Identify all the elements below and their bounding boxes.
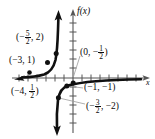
- p5-close-paren: ): [112, 82, 115, 92]
- p6-x-numerator: 3: [95, 99, 101, 107]
- point-marker-p4: [71, 81, 76, 86]
- curve-left-branch: [22, 18, 58, 78]
- p2-close-paren: ): [32, 55, 35, 65]
- p4-y-denominator: 2: [98, 52, 104, 61]
- p1-x-negative-sign: −: [19, 33, 24, 43]
- y-axis-label: f(x): [77, 7, 90, 17]
- point-marker-p1: [54, 51, 59, 56]
- point-label-p1: (−52, 2): [16, 30, 44, 46]
- point-marker-p6: [56, 95, 61, 100]
- p1-x-denominator: 2: [25, 37, 31, 46]
- p3-x-value: −4,: [14, 86, 29, 96]
- p1-x-numerator: 5: [25, 30, 31, 38]
- point-label-p6: (−32, −2): [86, 99, 119, 115]
- point-marker-p3: [27, 70, 32, 75]
- leader-lines: [59, 56, 85, 104]
- point-label-p3: (−4, 12): [11, 84, 39, 100]
- p3-y-numerator: 1: [29, 84, 35, 92]
- function-graph-figure: f(x) x (−52, 2) (−3, 1) (−4, 12) (0, −12…: [0, 0, 155, 139]
- p4-y-fraction: 12: [98, 45, 104, 61]
- p4-x-value: 0,: [83, 47, 93, 57]
- p6-x-denominator: 2: [95, 106, 101, 115]
- point-label-p2: (−3, 1): [9, 56, 35, 66]
- p5-text: −1, −1: [87, 82, 112, 92]
- p4-y-numerator: 1: [98, 45, 104, 53]
- x-axis-label: x: [146, 79, 150, 87]
- p3-close-paren: ): [35, 86, 38, 96]
- p1-close-paren: ): [40, 32, 43, 42]
- p3-y-fraction: 12: [29, 84, 35, 100]
- p4-y-negative-sign: −: [93, 48, 98, 58]
- p6-x-fraction: 32: [95, 99, 101, 115]
- p4-close-paren: ): [104, 47, 107, 57]
- graph-canvas: [0, 0, 155, 139]
- p1-x-fraction: 52: [25, 30, 31, 46]
- p3-y-denominator: 2: [29, 91, 35, 100]
- p6-y-value: −2: [106, 101, 116, 111]
- point-marker-p5: [64, 84, 69, 89]
- point-marker-p2: [45, 60, 50, 65]
- p6-close-paren: ): [116, 101, 119, 111]
- point-label-p4: (0, −12): [80, 45, 108, 61]
- leader-p6: [59, 98, 85, 104]
- p6-x-negative-sign: −: [89, 102, 94, 112]
- p2-text: −3, 1: [12, 55, 32, 65]
- point-label-p5: (−1, −1): [84, 83, 115, 93]
